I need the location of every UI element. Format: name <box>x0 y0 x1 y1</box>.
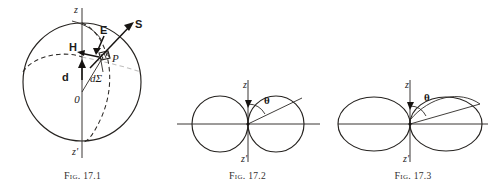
vector-e-label: E <box>100 24 107 36</box>
axis-label-z-bottom: z' <box>402 153 410 164</box>
theta-ray-line <box>410 104 480 124</box>
figure-17-3-caption: Fig. 17.3 <box>330 170 496 181</box>
origin-label: 0 <box>74 93 80 105</box>
theta-ray-line <box>248 98 302 124</box>
angle-theta-label: θ <box>424 91 430 103</box>
sector-upper-arc <box>410 97 480 120</box>
origin-dot <box>246 122 249 125</box>
figure-17-2: z z' θ Fig. 17.2 <box>165 0 330 185</box>
vector-d-label: d <box>62 71 69 83</box>
angle-theta-label: θ <box>264 94 270 106</box>
vector-s-label: S <box>135 18 142 30</box>
dsigma-leader-line <box>101 61 103 72</box>
figure-17-1-caption: Fig. 17.1 <box>0 170 165 181</box>
figure-17-3: z z' θ Fig. 17.3 <box>330 0 496 185</box>
figure-17-2-caption: Fig. 17.2 <box>165 170 330 181</box>
axis-label-z-top: z <box>242 79 247 90</box>
vector-h-arrowhead <box>77 50 85 56</box>
figure-17-1: z z' 0 P dΣ S E H d Fig. 17.1 <box>0 0 165 185</box>
figure-17-3-canvas: z z' θ <box>330 0 496 185</box>
axis-label-z-bottom: z' <box>240 153 248 164</box>
axis-label-z-top: z <box>404 79 409 90</box>
vector-d-arrowhead <box>78 59 86 68</box>
caption-number: 17.1 <box>83 171 101 181</box>
figure-17-2-canvas: z z' θ <box>165 0 330 185</box>
caption-word: Fig. <box>229 170 246 181</box>
caption-number: 17.2 <box>248 171 266 181</box>
vector-h-label: H <box>69 41 77 53</box>
figure-plate: z z' 0 P dΣ S E H d Fig. 17.1 <box>0 0 496 185</box>
vector-s-arrowhead <box>124 22 134 31</box>
origin-dot <box>408 122 411 125</box>
point-p-label: P <box>111 52 119 64</box>
caption-word: Fig. <box>394 170 411 181</box>
axis-label-z-bottom: z' <box>71 146 79 157</box>
field-curvature-arc <box>72 21 102 41</box>
surface-element-label: dΣ <box>90 72 103 84</box>
caption-number: 17.3 <box>414 171 432 181</box>
caption-word: Fig. <box>64 170 81 181</box>
figure-17-1-canvas: z z' 0 P dΣ S E H d <box>0 0 165 185</box>
equator-back-arc <box>23 54 82 72</box>
vector-s-shaft <box>90 25 131 68</box>
axis-label-z-top: z <box>73 4 78 15</box>
